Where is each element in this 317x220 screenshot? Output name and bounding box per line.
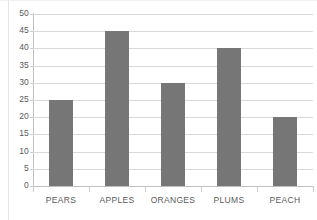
bar-plums xyxy=(217,48,241,186)
bar-peach xyxy=(273,117,297,186)
x-axis-labels: PEARSAPPLESORANGESPLUMSPEACH xyxy=(33,195,313,213)
x-axis-category-tick xyxy=(33,186,34,192)
x-axis-category-tick xyxy=(257,186,258,192)
bar-apples xyxy=(105,31,129,186)
bar-oranges xyxy=(161,83,185,186)
y-axis-tick-label: 25 xyxy=(3,95,29,104)
x-axis-tick-label: ORANGES xyxy=(145,195,201,206)
x-axis-ticks xyxy=(33,186,314,193)
y-axis-tick-label: 40 xyxy=(3,43,29,52)
bar-chart: 05101520253035404550 PEARSAPPLESORANGESP… xyxy=(0,0,317,220)
y-axis-tick-label: 35 xyxy=(3,61,29,70)
y-axis-tick-label: 10 xyxy=(3,147,29,156)
x-axis-category-tick xyxy=(201,186,202,192)
y-axis-tick-label: 30 xyxy=(3,78,29,87)
gridline xyxy=(33,14,313,15)
y-axis-labels: 05101520253035404550 xyxy=(0,0,29,220)
y-axis-tick-label: 20 xyxy=(3,112,29,121)
gridline xyxy=(33,48,313,49)
y-axis-tick-label: 5 xyxy=(3,164,29,173)
plot-area xyxy=(33,14,313,186)
x-axis-tick-label: PEARS xyxy=(33,195,89,206)
x-axis-tick-label: APPLES xyxy=(89,195,145,206)
x-axis-category-tick xyxy=(89,186,90,192)
x-axis-category-tick xyxy=(313,186,314,192)
y-axis-tick-label: 50 xyxy=(3,9,29,18)
x-axis-tick-label: PLUMS xyxy=(201,195,257,206)
x-axis-tick-label: PEACH xyxy=(257,195,313,206)
image-border-top xyxy=(0,0,317,1)
y-axis-tick-label: 15 xyxy=(3,129,29,138)
bar-pears xyxy=(49,100,73,186)
gridline xyxy=(33,31,313,32)
x-axis-category-tick xyxy=(145,186,146,192)
y-axis-tick-label: 0 xyxy=(3,181,29,190)
y-axis-tick-label: 45 xyxy=(3,26,29,35)
gridline xyxy=(33,66,313,67)
